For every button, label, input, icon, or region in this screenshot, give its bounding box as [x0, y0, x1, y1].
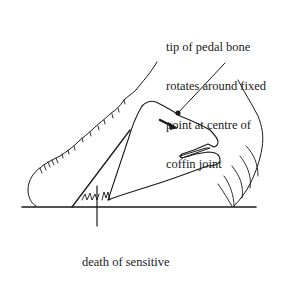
hoof-wall-outer: [28, 62, 157, 206]
hoof-diagram: tip of pedal bone rotates around fixed p…: [0, 0, 281, 296]
annotation-laminae-death: death of sensitive laminae allows tearin…: [82, 230, 169, 296]
annotation-line: point at centre of: [166, 119, 266, 132]
annotation-line: coffin joint: [166, 158, 266, 171]
annotation-line: rotates around fixed: [166, 80, 266, 93]
annotation-pedal-bone-rotation: tip of pedal bone rotates around fixed p…: [166, 15, 266, 197]
annotation-line: death of sensitive: [82, 256, 169, 269]
annotation-line: tip of pedal bone: [166, 41, 266, 54]
laminae-torn: [82, 192, 110, 200]
horn-tubules: [40, 100, 125, 173]
